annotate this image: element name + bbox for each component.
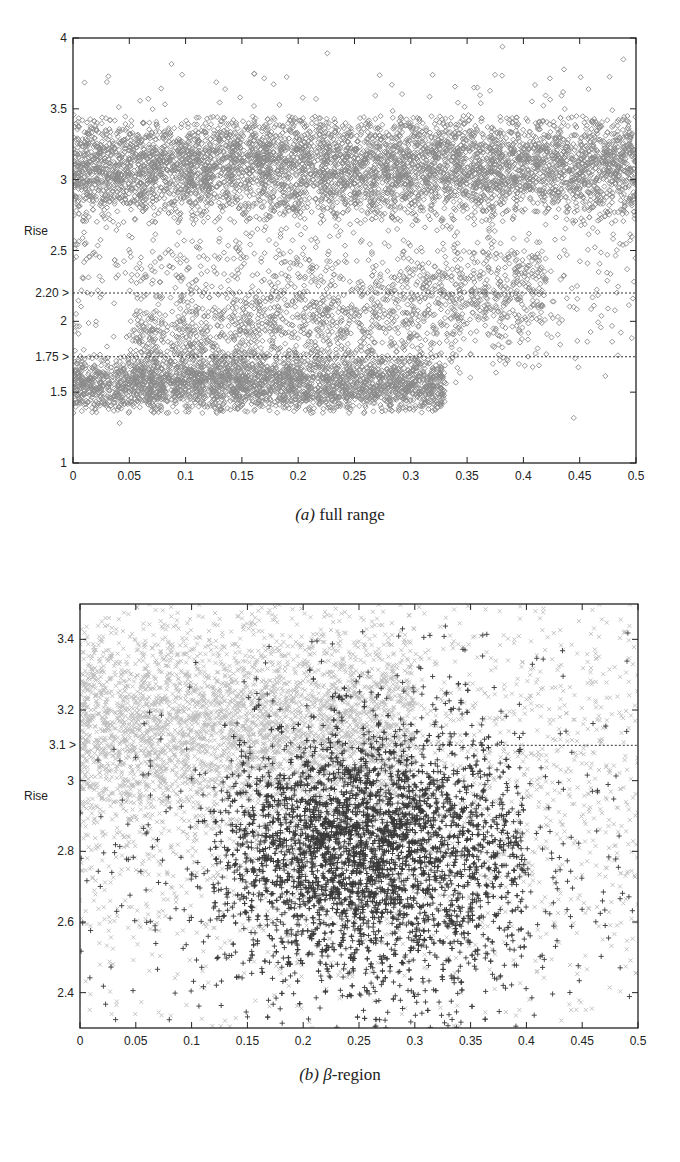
y-axis-label: Rise — [24, 789, 48, 803]
caption-b-beta: β — [323, 1065, 331, 1084]
x-tick-label: 0.15 — [236, 1034, 260, 1048]
y-tick-label: 3.5 — [50, 102, 67, 116]
reference-line-label: 3.1 > — [49, 738, 76, 752]
caption-a-text: full range — [315, 505, 385, 524]
y-tick-label: 1 — [60, 456, 67, 470]
caption-b-text: -region — [332, 1065, 381, 1084]
x-tick-label: 0.5 — [630, 1034, 647, 1048]
x-tick-label: 0.45 — [568, 469, 592, 483]
x-tick-label: 0.05 — [124, 1034, 148, 1048]
x-tick-label: 0 — [70, 469, 77, 483]
figure-a-full-range: 2.20 >1.75 >00.050.10.150.20.250.30.350.… — [0, 0, 680, 560]
caption-b: (b) β-region — [0, 1065, 680, 1085]
caption-a: (a) full range — [0, 505, 680, 525]
y-tick-label: 3.4 — [57, 632, 74, 646]
x-tick-label: 0.3 — [406, 1034, 423, 1048]
reference-line-label: 2.20 > — [35, 286, 69, 300]
data-points — [70, 44, 638, 426]
y-tick-label: 1.5 — [50, 385, 67, 399]
x-tick-label: 0.2 — [290, 469, 307, 483]
y-tick-label: 3 — [67, 774, 74, 788]
x-tick-label: 0.4 — [518, 1034, 535, 1048]
x-tick-label: 0.25 — [347, 1034, 371, 1048]
caption-a-letter: (a) — [295, 505, 315, 524]
scatter-plot-full-range: 2.20 >1.75 >00.050.10.150.20.250.30.350.… — [0, 0, 680, 500]
x-tick-label: 0.4 — [515, 469, 532, 483]
series-all-points — [70, 44, 638, 426]
x-tick-label: 0.25 — [343, 469, 367, 483]
y-axis-label: Rise — [24, 224, 48, 238]
x-tick-label: 0.05 — [118, 469, 142, 483]
caption-b-letter: (b) — [299, 1065, 319, 1084]
y-tick-label: 3 — [60, 173, 67, 187]
x-tick-label: 0.15 — [230, 469, 254, 483]
data-points — [78, 602, 640, 1030]
scatter-plot-beta-region: 3.1 >00.050.10.150.20.250.30.350.40.450.… — [0, 580, 680, 1060]
series-background-points — [78, 602, 640, 1030]
x-tick-label: 0.35 — [455, 469, 479, 483]
figure-b-beta-region: 3.1 >00.050.10.150.20.250.30.350.40.450.… — [0, 580, 680, 1162]
y-tick-label: 2.8 — [57, 844, 74, 858]
y-tick-label: 2.4 — [57, 986, 74, 1000]
x-tick-label: 0.1 — [177, 469, 194, 483]
y-tick-label: 2.6 — [57, 915, 74, 929]
x-tick-label: 0.35 — [459, 1034, 483, 1048]
reference-line-label: 1.75 > — [35, 350, 69, 364]
x-tick-label: 0.45 — [571, 1034, 595, 1048]
y-tick-label: 2.5 — [50, 244, 67, 258]
y-tick-label: 2 — [60, 314, 67, 328]
x-tick-label: 0.1 — [183, 1034, 200, 1048]
y-tick-label: 3.2 — [57, 703, 74, 717]
x-tick-label: 0.5 — [628, 469, 645, 483]
x-tick-label: 0 — [77, 1034, 84, 1048]
x-tick-label: 0.2 — [295, 1034, 312, 1048]
x-tick-label: 0.3 — [402, 469, 419, 483]
y-tick-label: 4 — [60, 31, 67, 45]
